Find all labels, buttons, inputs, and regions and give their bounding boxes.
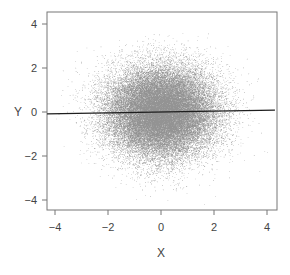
x-axis: −4−2024 (49, 210, 270, 233)
x-tick-label: −4 (49, 221, 62, 233)
plot-area (47, 12, 277, 210)
y-tick-label: −4 (24, 194, 37, 206)
x-tick-label: 4 (264, 221, 270, 233)
x-tick-label: 0 (158, 221, 164, 233)
y-tick-label: 2 (31, 62, 37, 74)
y-tick-label: 4 (31, 18, 37, 30)
x-tick-label: −2 (102, 221, 115, 233)
y-axis: −4−2024 (24, 18, 47, 206)
x-tick-label: 2 (211, 221, 217, 233)
y-tick-label: 0 (31, 106, 37, 118)
y-axis-label: Y (14, 105, 22, 119)
scatter-chart: −4−2024 −4−2024 X Y (0, 0, 290, 275)
x-axis-label: X (157, 246, 165, 260)
y-tick-label: −2 (24, 150, 37, 162)
